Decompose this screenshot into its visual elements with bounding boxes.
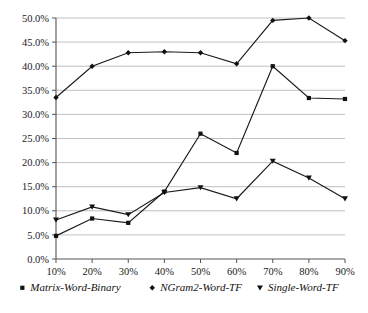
data-point-marker: [306, 15, 311, 20]
y-axis-tick-label: 20.0%: [22, 157, 49, 168]
y-axis-labels-group: 0.0%5.0%10.0%15.0%20.0%25.0%30.0%35.0%40…: [22, 13, 49, 265]
x-axis-tick-label: 50%: [191, 266, 211, 277]
legend-item-label: Single-Word-TF: [268, 281, 339, 293]
x-axis-tick-label: 60%: [227, 266, 247, 277]
x-axis-tick-label: 90%: [335, 266, 355, 277]
data-point-marker: [198, 132, 202, 136]
data-markers-group: [53, 15, 348, 238]
data-point-marker: [234, 196, 240, 201]
series-line: [56, 18, 345, 98]
y-axis-tick-label: 35.0%: [22, 85, 49, 96]
x-axis-tick-label: 80%: [299, 266, 319, 277]
x-axis-tick-label: 10%: [46, 266, 66, 277]
x-axis-tick-label: 30%: [119, 266, 139, 277]
y-axis-tick-label: 50.0%: [22, 13, 49, 24]
x-axis-tick-label: 40%: [155, 266, 175, 277]
y-axis-tick-label: 40.0%: [22, 61, 49, 72]
y-axis-tick-label: 25.0%: [22, 133, 49, 144]
data-point-marker: [342, 196, 348, 201]
x-axis-tick-label: 70%: [263, 266, 283, 277]
x-axis-labels-group: 10%20%30%40%50%60%70%80%90%: [46, 266, 355, 277]
y-tick-marks-group: [52, 18, 56, 259]
data-point-marker: [90, 216, 94, 220]
y-axis-tick-label: 10.0%: [22, 205, 49, 216]
legend-item-label: NGram2-Word-TF: [159, 281, 242, 293]
data-point-marker: [54, 234, 58, 238]
data-point-marker: [125, 212, 131, 217]
data-point-marker: [343, 97, 347, 101]
data-point-marker: [162, 49, 167, 54]
y-axis-tick-label: 0.0%: [27, 254, 49, 265]
legend-triangle-marker-icon: [257, 285, 263, 290]
y-axis-tick-label: 15.0%: [22, 181, 49, 192]
x-axis-tick-label: 20%: [83, 266, 103, 277]
y-axis-tick-label: 30.0%: [22, 109, 49, 120]
data-point-marker: [271, 64, 275, 68]
data-point-marker: [126, 50, 131, 55]
data-point-marker: [126, 221, 130, 225]
legend-item-label: Matrix-Word-Binary: [29, 281, 120, 293]
legend: Matrix-Word-BinaryNGram2-Word-TFSingle-W…: [20, 281, 339, 293]
legend-square-marker-icon: [20, 286, 24, 290]
x-tick-marks-group: [56, 259, 345, 263]
data-point-marker: [235, 151, 239, 155]
data-point-marker: [53, 218, 59, 223]
line-chart: 0.0%5.0%10.0%15.0%20.0%25.0%30.0%35.0%40…: [0, 0, 368, 313]
data-point-marker: [307, 96, 311, 100]
data-point-marker: [306, 176, 312, 181]
data-point-marker: [198, 50, 203, 55]
legend-diamond-marker-icon: [150, 285, 155, 290]
y-axis-tick-label: 5.0%: [27, 230, 49, 241]
y-axis-tick-label: 45.0%: [22, 37, 49, 48]
chart-canvas: 0.0%5.0%10.0%15.0%20.0%25.0%30.0%35.0%40…: [0, 0, 368, 313]
